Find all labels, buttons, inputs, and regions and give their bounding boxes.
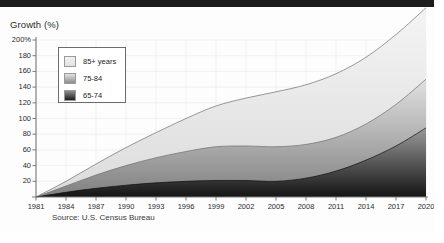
y-tick-label: 160 bbox=[1, 66, 31, 75]
x-tick-label: 2017 bbox=[379, 202, 413, 211]
x-tick-label: 1990 bbox=[109, 202, 143, 211]
y-tick-label: 80 bbox=[1, 129, 31, 138]
legend-label-75-84: 75-84 bbox=[83, 74, 102, 83]
x-tick-label: 2014 bbox=[349, 202, 383, 211]
x-tick-label: 1981 bbox=[19, 202, 53, 211]
legend-item-75-84[interactable]: 75-84 bbox=[64, 70, 121, 86]
x-tick-label: 1984 bbox=[49, 202, 83, 211]
x-tick-label: 1996 bbox=[169, 202, 203, 211]
y-tick-label: 100 bbox=[1, 114, 31, 123]
y-tick-label: 120 bbox=[1, 98, 31, 107]
y-tick-label: 20 bbox=[1, 176, 31, 185]
y-tick-label: 60 bbox=[1, 145, 31, 154]
x-tick-label: 2008 bbox=[289, 202, 323, 211]
x-tick-label: 1987 bbox=[79, 202, 113, 211]
x-tick-label: 1999 bbox=[199, 202, 233, 211]
x-tick-label: 2005 bbox=[259, 202, 293, 211]
right-margin-mask bbox=[434, 0, 444, 232]
legend-label-85-plus: 85+ years bbox=[83, 57, 116, 66]
y-tick-label: 200% bbox=[1, 35, 31, 44]
legend-swatch-75-84-icon bbox=[64, 73, 76, 84]
chart-figure: Growth (%) 200%18016014012010080604020 1… bbox=[0, 0, 444, 243]
y-tick-label: 180 bbox=[1, 51, 31, 60]
x-tick-label: 2011 bbox=[319, 202, 353, 211]
x-tick-label: 1993 bbox=[139, 202, 173, 211]
bottom-margin-band bbox=[0, 232, 444, 243]
x-tick-label: 2002 bbox=[229, 202, 263, 211]
y-tick-label: 40 bbox=[1, 161, 31, 170]
legend-swatch-85-plus-icon bbox=[64, 56, 76, 67]
legend-item-85-plus[interactable]: 85+ years bbox=[64, 53, 121, 69]
legend-label-65-74: 65-74 bbox=[83, 91, 102, 100]
y-tick-label: 140 bbox=[1, 82, 31, 91]
legend-item-65-74[interactable]: 65-74 bbox=[64, 87, 121, 103]
source-note: Source: U.S. Census Bureau bbox=[52, 213, 155, 222]
legend-swatch-65-74-icon bbox=[64, 90, 76, 101]
chart-legend[interactable]: 85+ years 75-84 65-74 bbox=[58, 47, 126, 103]
